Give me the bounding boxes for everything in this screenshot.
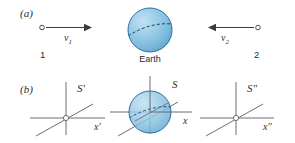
- velocity-1-label: v1: [64, 32, 72, 46]
- s-prime-frame-label: S′: [77, 82, 86, 94]
- velocity-1-arrowhead: [84, 24, 92, 31]
- s-frame-label: S: [172, 78, 178, 90]
- frame-s-prime: S′ x′: [30, 82, 105, 136]
- frame-s: S x: [110, 76, 192, 136]
- s-double-prime-frame-label: S″: [247, 82, 258, 94]
- particle-2-number: 2: [254, 49, 259, 60]
- panel-a-label: (a): [20, 7, 33, 20]
- s-x-axis-label: x: [182, 115, 188, 126]
- earth-globe-icon: [128, 8, 172, 52]
- particle-2-group: v2 2: [208, 24, 260, 60]
- velocity-2-label: v2: [221, 32, 229, 46]
- earth-sphere-panel-a: Earth: [128, 8, 172, 64]
- s-double-prime-x-axis-label: x″: [262, 121, 272, 132]
- panel-b: (b) S′ x′ S x: [20, 76, 274, 136]
- particle-2-dot: [256, 25, 261, 30]
- earth-label: Earth: [139, 54, 161, 64]
- s-double-prime-origin-dot: [233, 115, 238, 120]
- panel-a: (a) v1 1 Earth v2 2: [20, 7, 260, 64]
- relative-motion-reference-frames-figure: (a) v1 1 Earth v2 2 (b): [0, 0, 295, 143]
- s-prime-x-axis-label: x′: [93, 121, 101, 132]
- frame-s-double-prime: S″ x″: [200, 82, 274, 136]
- panel-b-label: (b): [20, 83, 33, 96]
- particle-1-group: v1 1: [40, 24, 92, 60]
- s-prime-origin-dot: [63, 115, 68, 120]
- particle-1-number: 1: [40, 49, 45, 60]
- particle-1-dot: [40, 25, 45, 30]
- velocity-2-arrowhead: [208, 24, 216, 31]
